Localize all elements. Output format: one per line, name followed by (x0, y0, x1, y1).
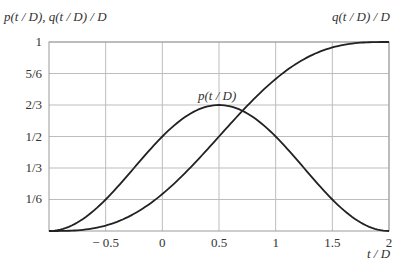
x-tick-labels: − 0.500.511.52 (92, 235, 392, 250)
y-tick-label: 1/3 (25, 160, 42, 175)
y-tick-label: 2/3 (25, 97, 42, 112)
y-axis-label: p(t / D), q(t / D) / D (3, 9, 107, 24)
x-tick-label: 0.5 (211, 235, 227, 250)
x-tick-label: − 0.5 (92, 235, 119, 250)
p-curve-label: p(t / D) (197, 88, 236, 103)
q-curve-label: q(t / D) / D (332, 9, 390, 24)
chart-root: 1/61/31/22/35/61 − 0.500.511.52 p(t / D)… (0, 0, 411, 277)
x-tick-label: 1 (272, 235, 279, 250)
y-tick-label: 1/2 (25, 129, 42, 144)
x-tick-label: 1.5 (324, 235, 340, 250)
x-tick-label: 0 (159, 235, 166, 250)
y-tick-label: 1 (36, 34, 43, 49)
y-tick-label: 1/6 (25, 191, 42, 206)
y-tick-label: 5/6 (25, 66, 42, 81)
x-axis-label: t / D (367, 246, 391, 261)
y-tick-labels: 1/61/31/22/35/61 (25, 34, 42, 206)
